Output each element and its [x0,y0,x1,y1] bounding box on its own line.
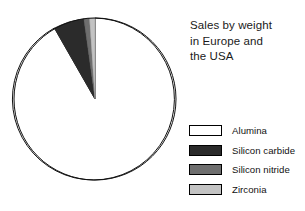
chart-title-line-3: the USA [190,49,305,65]
chart-title-line-2: in Europe and [190,34,305,50]
legend-swatch-alumina [189,125,222,136]
chart-title-line-1: Sales by weight [190,18,305,34]
legend-swatch-silicon-carbide [189,145,222,156]
legend-label-alumina: Alumina [232,125,267,136]
legend-item-zirconia[interactable]: Zirconia [189,180,305,200]
legend-swatch-zirconia [189,184,222,195]
chart-title: Sales by weight in Europe and the USA [190,18,305,65]
legend-item-silicon-nitride[interactable]: Silicon nitride [189,160,305,180]
legend-item-alumina[interactable]: Alumina [189,121,305,141]
legend-label-silicon-nitride: Silicon nitride [232,164,290,175]
legend-label-silicon-carbide: Silicon carbide [232,145,295,156]
pie-chart-figure: Sales by weight in Europe and the USA Al… [0,0,305,211]
legend: Alumina Silicon carbide Silicon nitride … [189,121,305,199]
pie-chart [0,0,200,211]
legend-label-zirconia: Zirconia [232,184,267,195]
legend-swatch-silicon-nitride [189,164,222,175]
legend-item-silicon-carbide[interactable]: Silicon carbide [189,141,305,161]
